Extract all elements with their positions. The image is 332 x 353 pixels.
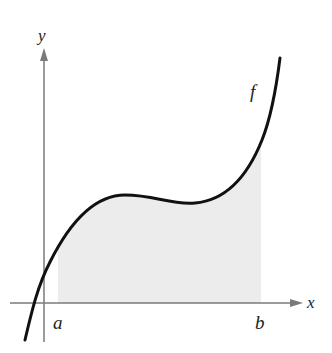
upper-bound-label-b: b xyxy=(255,312,265,333)
x-axis-label: x xyxy=(306,293,315,312)
y-axis-label: y xyxy=(36,26,46,45)
lower-bound-label-a: a xyxy=(53,312,63,333)
x-axis-arrow-icon xyxy=(290,299,303,307)
area-under-curve-figure: y x f a b xyxy=(0,0,332,353)
function-label: f xyxy=(250,81,258,102)
y-axis-arrow-icon xyxy=(40,48,48,61)
graph-svg: y x f a b xyxy=(0,0,332,353)
